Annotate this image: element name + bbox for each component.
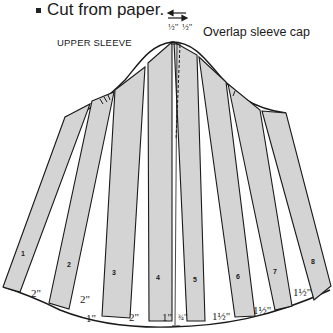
- overlap-fractions: ½" ½": [168, 22, 193, 32]
- strip-label-5: 5: [193, 276, 197, 283]
- spread-label-4-center: 1": [162, 311, 172, 323]
- spread-label-2-3-lower: 1": [86, 312, 96, 324]
- svg-text:½": ½": [182, 22, 193, 32]
- spread-label-1-2: 2": [31, 287, 41, 299]
- spread-label-6-7: 1½": [253, 304, 271, 316]
- strip-label-2: 2: [67, 261, 71, 268]
- strip-6: [199, 57, 255, 317]
- sleeve-pattern-diagram: ½" ½" 1 2 3 4 5 6 7 8: [0, 0, 333, 333]
- strip-label-7: 7: [273, 268, 277, 275]
- overlap-arrows-icon: [168, 11, 187, 21]
- strip-label-4: 4: [156, 274, 160, 281]
- spread-label-5-6: 1½": [212, 310, 230, 322]
- strip-label-1: 1: [21, 250, 25, 257]
- strip-label-3: 3: [112, 269, 116, 276]
- spread-label-center-5: ¾": [178, 313, 187, 322]
- strip-5: [174, 42, 205, 321]
- strip-label-8: 8: [311, 258, 315, 265]
- spread-label-7-8: 1½": [293, 286, 311, 298]
- spread-label-2-3-upper: 2": [80, 293, 90, 305]
- svg-text:½": ½": [168, 22, 179, 32]
- strip-label-6: 6: [236, 273, 240, 280]
- spread-label-3-4: 2": [129, 311, 139, 323]
- pattern-strips: [3, 42, 331, 321]
- strip-4: [148, 42, 172, 321]
